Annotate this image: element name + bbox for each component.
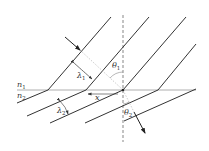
refraction-diagram: n1 n2 λ1 λ2 θ1 θ2 x: [0, 0, 209, 151]
theta2-label: θ2: [124, 108, 132, 118]
theta1-label: θ1: [112, 61, 120, 71]
incident-wavefronts: [48, 17, 196, 90]
x-label: x: [95, 93, 100, 102]
lambda2-label: λ2: [56, 106, 66, 116]
theta1-arc: [110, 72, 123, 78]
incidence-point: [122, 89, 125, 92]
refracted-ray-arrow: [134, 112, 145, 133]
n1-label: n1: [17, 80, 26, 90]
incident-ray-arrow: [65, 37, 80, 50]
n2-label: n2: [17, 91, 26, 101]
